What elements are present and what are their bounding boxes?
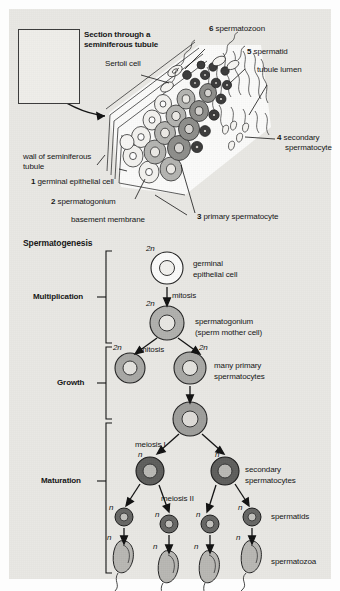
cell-spermatogonium xyxy=(150,306,184,340)
label-4-secondary-spermatocyte: 4 secondary xyxy=(277,133,320,143)
text-5: spermatid xyxy=(251,47,287,56)
ploidy-2n-spermatogonium: 2n xyxy=(146,299,155,309)
ploidy-n-spermatid-3: n xyxy=(196,510,200,520)
figure-panel: Section through a seminiferous tubule Se… xyxy=(9,9,331,579)
ploidy-n-secondary-right: n xyxy=(215,450,219,460)
cell-secondary-spermatocyte-left xyxy=(136,457,164,485)
panel-title: Section through a seminiferous tubule xyxy=(84,30,158,49)
celllabel-spermatogonium: spermatogonium xyxy=(195,317,253,327)
process-label-meiosis-1: meiosis I xyxy=(135,440,166,450)
spermatozoa-row xyxy=(113,541,262,591)
process-label-meiosis-2: meiosis II xyxy=(161,494,194,504)
cell-primary-spermatocyte-right xyxy=(174,352,206,384)
label-5-spermatid: 5 spermatid xyxy=(247,47,288,57)
ploidy-2n-primary-right: 2n xyxy=(199,343,208,353)
cell-spermatid-1 xyxy=(115,508,133,526)
ploidy-n-spermatozoon-4: n xyxy=(236,533,240,543)
figure-page: Section through a seminiferous tubule Se… xyxy=(0,0,340,591)
spermatozoon-2 xyxy=(158,551,179,591)
ploidy-n-spermatid-4: n xyxy=(238,503,242,513)
label-4-secondary-line2: spermatocyte xyxy=(285,143,332,153)
celllabel-many-primary: many primary xyxy=(214,361,261,371)
cell-spermatid-2 xyxy=(160,515,178,533)
spermatozoon-3 xyxy=(199,551,219,591)
spermatozoon-1 xyxy=(113,541,134,591)
cell-secondary-spermatocyte-right xyxy=(211,457,239,485)
celllabel-spermatozoa: spermatozoa xyxy=(271,557,316,567)
flowchart-graphics xyxy=(9,237,331,579)
celllabel-spermatids: spermatids xyxy=(271,512,309,522)
celllabel-germinal: germinal xyxy=(193,259,223,269)
text-6: spermatozoon xyxy=(213,24,265,33)
cell-primary-spermatocyte-left xyxy=(115,353,145,383)
ploidy-n-spermatozoon-3: n xyxy=(194,542,198,552)
cell-grown-primary-spermatocyte xyxy=(173,402,207,436)
cell-spermatid-4 xyxy=(243,508,261,526)
ploidy-2n-primary-left: 2n xyxy=(113,343,122,353)
label-sertoli-cell: Sertoli cell xyxy=(105,59,141,69)
text-2: spermatogonium xyxy=(55,197,115,206)
ploidy-n-spermatozoon-2: n xyxy=(153,542,157,552)
label-6-spermatozoon: 6 spermatozoon xyxy=(209,24,265,34)
celllabel-secondary-spermatocytes: spermatocytes xyxy=(245,476,296,486)
celllabel-secondary: secondary xyxy=(245,465,281,475)
ploidy-n-spermatozoon-1: n xyxy=(107,533,111,543)
label-3-primary-spermatocyte: 3 primary spermatocyte xyxy=(197,212,278,222)
ploidy-n-spermatid-1: n xyxy=(109,503,113,513)
cell-spermatid-3 xyxy=(201,515,219,533)
ploidy-n-spermatid-2: n xyxy=(155,510,159,520)
celllabel-epithelial-cell: epithelial cell xyxy=(193,270,237,280)
celllabel-primary-spermatocytes: spermatocytes xyxy=(214,372,265,382)
label-basement-membrane: basement membrane xyxy=(71,215,145,225)
celllabel-sperm-mother-cell: (sperm mother cell) xyxy=(195,328,262,338)
stage-label-maturation: Maturation xyxy=(41,476,81,486)
spermatozoon-4 xyxy=(239,541,261,591)
stage-label-growth: Growth xyxy=(57,378,84,388)
process-label-mitosis-2: mitosis xyxy=(140,345,164,355)
process-label-mitosis-1: mitosis xyxy=(172,291,196,301)
text-3: primary spermatocyte xyxy=(201,212,278,221)
ploidy-2n-germinal: 2n xyxy=(146,244,155,254)
text-1: germinal epithelial cell xyxy=(35,177,113,186)
testis-inset-box xyxy=(18,29,80,104)
label-tubule-lumen: tubule lumen xyxy=(257,65,302,75)
cell-germinal-epithelial xyxy=(151,252,183,284)
label-2-spermatogonium: 2 spermatogonium xyxy=(51,197,116,207)
label-1-germinal-epithelial-cell: 1 germinal epithelial cell xyxy=(31,177,114,187)
label-wall-of-tubule: wall of seminiferous tubule xyxy=(23,152,91,171)
ploidy-n-secondary-left: n xyxy=(138,450,142,460)
stage-label-multiplication: Multiplication xyxy=(33,292,83,302)
stage-brackets xyxy=(97,251,112,573)
text-4: secondary xyxy=(281,133,319,142)
spermatogenesis-flowchart: Spermatogenesis xyxy=(9,237,331,579)
seminiferous-tubule-figure: Section through a seminiferous tubule Se… xyxy=(9,9,331,237)
